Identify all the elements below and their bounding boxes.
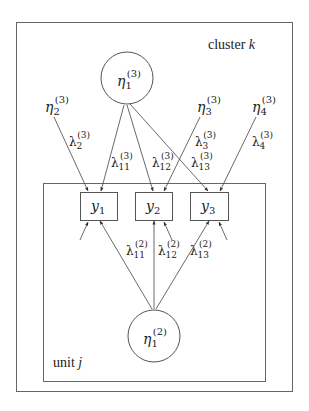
observed-y3: y3 <box>191 193 229 221</box>
paths-level2-common <box>100 221 209 309</box>
loading-lambda4-3: λ4(3) <box>252 130 273 151</box>
specific-factor-eta3: η3(3) <box>197 94 221 117</box>
unit-label: unit j <box>53 355 82 370</box>
observed-y1: y1 <box>81 193 118 221</box>
path-diagram: cluster k unit j η1(3) η1(2) η2(3) η3(3)… <box>0 0 309 411</box>
loading-lambda13-2: λ13(2) <box>190 239 212 260</box>
loading-lambda11-2: λ11(2) <box>126 239 148 260</box>
loading-lambda2-3: λ2(3) <box>69 130 90 151</box>
loading-lambda11-3: λ11(3) <box>111 151 133 172</box>
paths-level3-common <box>101 104 208 191</box>
loading-lambda3-3: λ3(3) <box>195 130 216 151</box>
loading-lambda13-3: λ13(3) <box>191 151 213 172</box>
loading-lambda12-2: λ12(2) <box>158 239 180 260</box>
latent-eta1-level2-label: η1(2) <box>143 326 167 349</box>
observed-y2: y2 <box>136 193 173 221</box>
latent-eta1-level3-label: η1(3) <box>117 68 141 91</box>
paths-specific-factors <box>54 117 256 191</box>
specific-factor-eta2: η2(3) <box>45 94 69 117</box>
cluster-label: cluster k <box>208 37 256 52</box>
specific-factor-eta4: η4(3) <box>252 94 276 117</box>
loading-lambda12-3: λ12(3) <box>152 151 174 172</box>
